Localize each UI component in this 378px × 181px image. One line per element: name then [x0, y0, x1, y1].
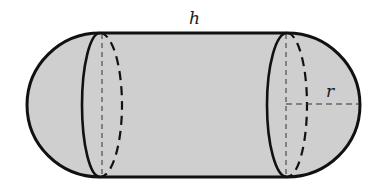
- capsule-body: [27, 33, 360, 177]
- height-label: h: [189, 8, 200, 28]
- capsule-diagram: h r: [0, 0, 378, 181]
- radius-label: r: [326, 81, 335, 101]
